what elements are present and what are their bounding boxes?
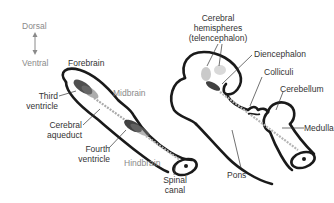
spinal-canal-opening-icon — [184, 164, 188, 168]
later-brain-outline — [171, 52, 316, 184]
dorsal-ventral-arrow-icon — [33, 32, 38, 55]
fourth-ventricle-label: Fourth ventricle — [74, 144, 110, 164]
cerebral-aqueduct-label: Cerebral aqueduct — [42, 120, 82, 140]
pons-label: Pons — [227, 170, 246, 180]
diencephalon-label: Diencephalon — [254, 49, 306, 59]
ventral-label: Ventral — [22, 58, 48, 68]
colliculi-label: Colliculi — [264, 67, 293, 77]
third-ventricle-label: Third ventricle — [22, 91, 58, 111]
medulla-label: Medulla — [304, 123, 334, 133]
dorsal-label: Dorsal — [22, 21, 47, 31]
cerebral-hemispheres-label: Cerebral hemispheres (telencephalon) — [186, 13, 250, 43]
spinal-canal-label: Spinal canal — [160, 175, 190, 195]
later-canal-opening-icon — [302, 157, 306, 161]
hindbrain-label: Hindbrain — [124, 158, 160, 168]
midbrain-label: Midbrain — [113, 88, 146, 98]
cerebellum-label: Cerebellum — [280, 84, 323, 94]
forebrain-label: Forebrain — [68, 58, 104, 68]
